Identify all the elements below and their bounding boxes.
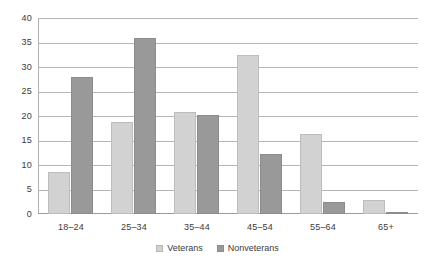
bar-veterans-55-64[interactable]: [300, 134, 322, 214]
chart-legend: Veterans Nonveterans: [0, 243, 435, 253]
bar-veterans-45-54[interactable]: [237, 55, 259, 214]
legend-swatch-icon-veterans: [156, 245, 163, 252]
bar-nonveterans-65-plus[interactable]: [386, 212, 408, 214]
x-axis-label-55-64: 55–64: [291, 222, 355, 232]
bar-group-65-plus: [355, 18, 417, 214]
legend-swatch-icon-nonveterans: [217, 245, 224, 252]
x-axis-label-65-plus: 65+: [354, 222, 418, 232]
legend-label-nonveterans: Nonveterans: [228, 243, 279, 253]
bars-layer: [38, 18, 418, 214]
bar-nonveterans-45-54[interactable]: [260, 154, 282, 214]
x-axis-label-35-44: 35–44: [165, 222, 229, 232]
bar-nonveterans-55-64[interactable]: [323, 202, 345, 214]
y-axis-tick-label: 0: [6, 210, 32, 219]
bar-group-55-64: [292, 18, 354, 214]
y-axis-tick-label: 5: [6, 185, 32, 194]
x-axis-label-25-34: 25–34: [102, 222, 166, 232]
x-axis-label-45-54: 45–54: [228, 222, 292, 232]
y-axis-tick-label: 35: [6, 38, 32, 47]
bar-veterans-35-44[interactable]: [174, 112, 196, 214]
legend-item-veterans[interactable]: Veterans: [156, 243, 203, 253]
bar-group-25-34: [103, 18, 165, 214]
y-axis-tick-label: 40: [6, 14, 32, 23]
legend-item-nonveterans[interactable]: Nonveterans: [217, 243, 279, 253]
bar-group-18-24: [40, 18, 102, 214]
bar-veterans-25-34[interactable]: [111, 122, 133, 214]
x-axis-label-18-24: 18–24: [39, 222, 103, 232]
plot-area: [38, 18, 418, 214]
bar-veterans-18-24[interactable]: [48, 172, 70, 214]
bar-nonveterans-18-24[interactable]: [71, 77, 93, 214]
y-axis-tick-label: 30: [6, 63, 32, 72]
bar-group-45-54: [229, 18, 291, 214]
y-axis-tick-label: 20: [6, 112, 32, 121]
bar-group-35-44: [166, 18, 228, 214]
legend-label-veterans: Veterans: [167, 243, 203, 253]
y-axis-tick-label: 10: [6, 161, 32, 170]
bar-nonveterans-35-44[interactable]: [197, 115, 219, 215]
y-axis-tick-label: 25: [6, 87, 32, 96]
y-axis-tick-label: 15: [6, 136, 32, 145]
bar-chart: 40 35 30 25 20 15 10 5 0: [0, 0, 435, 266]
bar-veterans-65-plus[interactable]: [363, 200, 385, 214]
bar-nonveterans-25-34[interactable]: [134, 38, 156, 214]
